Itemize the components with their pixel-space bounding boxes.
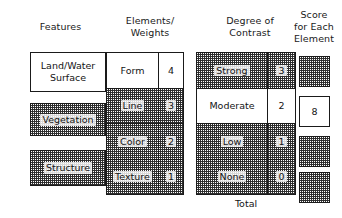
table-row-moderate[interactable]: Moderate 2 <box>197 89 295 125</box>
feature-box-vegetation[interactable]: Vegetation <box>30 103 106 136</box>
table-row-strong[interactable]: Strong 3 <box>197 53 295 89</box>
table-row-none[interactable]: None 0 <box>197 160 295 195</box>
element-label: Color <box>118 136 147 147</box>
element-name-cell[interactable]: Line <box>107 89 159 124</box>
element-label: Form <box>119 65 147 76</box>
column-header-elements-weights: Elements/ Weights <box>100 15 200 39</box>
elements-weights-table: Form 4 Line 3 Color 2 Texture 1 <box>106 52 184 195</box>
score-box-3[interactable] <box>299 136 330 167</box>
feature-label: Vegetation <box>40 114 95 126</box>
contrast-value: 1 <box>276 136 286 147</box>
element-label: Texture <box>113 171 152 182</box>
contrast-value-cell[interactable]: 0 <box>268 160 295 195</box>
table-row-texture[interactable]: Texture 1 <box>107 160 183 195</box>
contrast-label: Moderate <box>209 100 254 111</box>
column-header-features: Features <box>8 21 113 33</box>
contrast-value: 3 <box>276 65 286 76</box>
contrast-label: Strong <box>214 65 249 76</box>
element-weight-cell[interactable]: 3 <box>159 89 183 124</box>
contrast-value-cell[interactable]: 2 <box>268 89 295 124</box>
contrast-name-cell[interactable]: Strong <box>197 53 268 88</box>
score-box-1[interactable] <box>299 56 330 87</box>
score-value: 8 <box>310 106 318 117</box>
contrast-name-cell[interactable]: None <box>197 160 268 195</box>
table-row-low[interactable]: Low 1 <box>197 124 295 160</box>
element-label: Line <box>121 100 145 111</box>
contrast-name-cell[interactable]: Moderate <box>197 89 268 124</box>
contrast-value: 2 <box>278 100 284 111</box>
contrast-value-cell[interactable]: 1 <box>268 124 295 159</box>
table-row-color[interactable]: Color 2 <box>107 124 183 160</box>
contrast-name-cell[interactable]: Low <box>197 124 268 159</box>
score-box-4[interactable] <box>299 172 330 203</box>
element-weight-cell[interactable]: 4 <box>159 53 183 88</box>
contrast-value-cell[interactable]: 3 <box>268 53 295 88</box>
element-weight-cell[interactable]: 1 <box>159 160 183 195</box>
contrast-label: None <box>218 171 247 182</box>
feature-box-land-water-surface[interactable]: Land/Water Surface <box>30 52 106 92</box>
element-name-cell[interactable]: Form <box>107 53 159 88</box>
element-weight: 2 <box>166 136 176 147</box>
feature-label: Structure <box>44 162 92 174</box>
table-row-form[interactable]: Form 4 <box>107 53 183 89</box>
element-weight: 4 <box>168 65 174 76</box>
element-name-cell[interactable]: Color <box>107 124 159 159</box>
contrast-value: 0 <box>276 171 286 182</box>
column-header-score-for-each-element: Score for Each Element <box>288 9 340 45</box>
table-row-line[interactable]: Line 3 <box>107 89 183 125</box>
element-weight: 1 <box>166 171 176 182</box>
element-weight: 3 <box>166 100 176 111</box>
feature-box-structure[interactable]: Structure <box>30 150 106 186</box>
total-label: Total <box>196 198 296 209</box>
feature-label: Land/Water Surface <box>39 60 97 84</box>
degree-of-contrast-table: Strong 3 Moderate 2 Low 1 None 0 <box>196 52 296 195</box>
element-name-cell[interactable]: Texture <box>107 160 159 195</box>
contrast-label: Low <box>221 136 244 147</box>
score-box-2[interactable]: 8 <box>299 96 330 127</box>
element-weight-cell[interactable]: 2 <box>159 124 183 159</box>
